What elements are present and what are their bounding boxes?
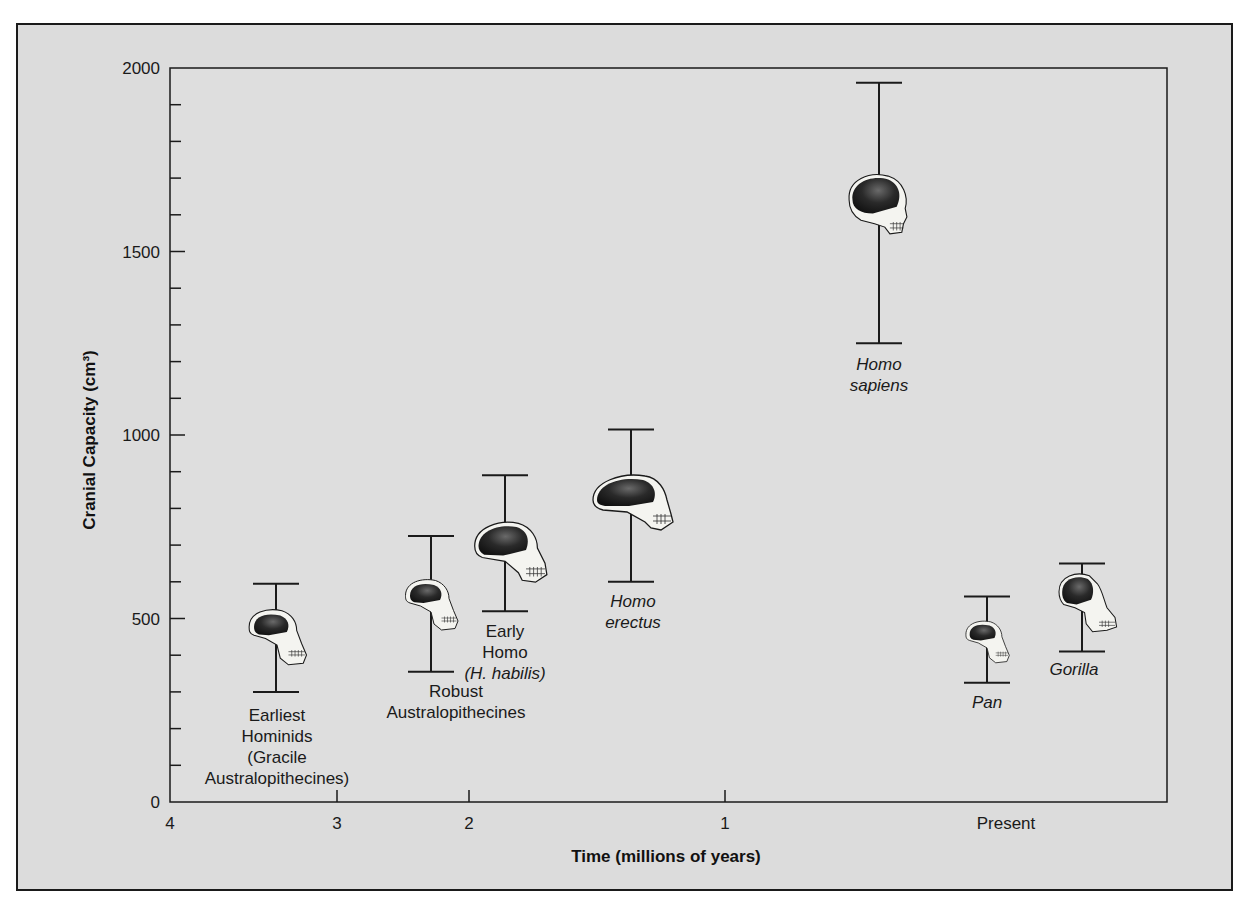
taxon-label: erectus xyxy=(605,613,661,632)
x-tick-label: 2 xyxy=(464,814,473,833)
taxon-label: Hominids xyxy=(242,727,313,746)
x-axis-title: Time (millions of years) xyxy=(571,847,761,866)
taxon-label: Early xyxy=(486,622,525,641)
x-tick-label: 1 xyxy=(720,814,729,833)
taxon-label: Robust xyxy=(429,682,483,701)
taxon-label: Earliest xyxy=(249,706,306,725)
y-tick-label: 1000 xyxy=(122,426,160,445)
taxon-label: Homo xyxy=(610,592,655,611)
x-tick-label: 4 xyxy=(165,814,174,833)
y-tick-label: 1500 xyxy=(122,243,160,262)
x-tick-label: 3 xyxy=(332,814,341,833)
y-tick-label: 500 xyxy=(132,610,160,629)
taxon-label: Homo xyxy=(482,643,527,662)
plot-area xyxy=(170,68,1167,802)
y-tick-label: 2000 xyxy=(122,59,160,78)
y-tick-label: 0 xyxy=(151,793,160,812)
cranial-capacity-chart: 0500100015002000 4321Present Time (milli… xyxy=(0,0,1248,903)
taxon-label: sapiens xyxy=(850,376,909,395)
taxon-label: Homo xyxy=(856,355,901,374)
taxon-label: Australopithecines xyxy=(387,703,526,722)
y-axis-title: Cranial Capacity (cm³) xyxy=(80,350,99,530)
taxon-label: (H. habilis) xyxy=(464,664,545,683)
taxon-label: Gorilla xyxy=(1049,660,1098,679)
x-tick-label: Present xyxy=(977,814,1036,833)
taxon-label: Australopithecines) xyxy=(205,769,350,788)
taxon-label: Pan xyxy=(972,693,1002,712)
taxon-label: (Gracile xyxy=(247,748,307,767)
